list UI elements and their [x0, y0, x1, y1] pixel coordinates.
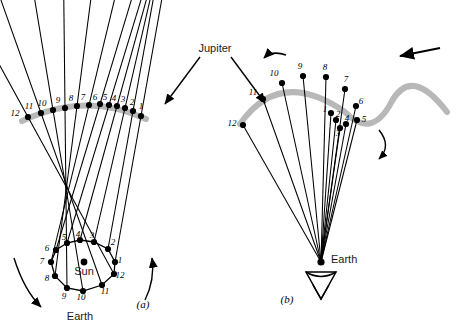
jupiter-b-label-12: 12: [228, 118, 238, 128]
jupiter-b-marker-12: [240, 122, 246, 128]
jupiter-b-label-5: 5: [362, 114, 367, 124]
earth-label-4: 4: [76, 229, 81, 239]
earth-label-2: 2: [111, 237, 116, 247]
observer-eye-icon: [306, 272, 336, 299]
jupiter-b-marker-1: [328, 110, 334, 116]
sight-lines-group-a: [0, 0, 173, 291]
jupiter-a-label-3: 3: [120, 94, 126, 104]
earth-label-10: 10: [77, 292, 87, 302]
earth-orbit-label: Earth: [67, 310, 93, 322]
panel-a-caption: (a): [137, 298, 150, 311]
earth-marker-7: [48, 259, 54, 265]
jupiter-b-label-8: 8: [323, 62, 328, 72]
panel-b: 121110987654321 Earth (b): [228, 48, 448, 306]
earth-label-12: 12: [116, 270, 126, 280]
jupiter-label: Jupiter: [198, 42, 231, 54]
earth-observer-marker: [317, 258, 324, 265]
sight-line-b-10: [282, 83, 321, 262]
retrograde-direction-arrow: [264, 53, 286, 58]
jupiter-b-label-11: 11: [249, 87, 257, 97]
sun-label: Sun: [74, 265, 94, 277]
jupiter-b-marker-10: [279, 80, 285, 86]
earth-label-9: 9: [62, 291, 67, 301]
earth-label-6: 6: [45, 243, 50, 253]
sight-line-b-5: [321, 120, 357, 262]
earth-label-7: 7: [40, 256, 45, 266]
jupiter-b-label-1: 1: [323, 104, 328, 114]
jupiter-position-markers-a: 121110987654321: [11, 92, 145, 120]
jupiter-a-label-8: 8: [69, 93, 74, 103]
jupiter-a-label-11: 11: [25, 101, 33, 111]
jupiter-a-label-4: 4: [112, 93, 117, 103]
earth-label-8: 8: [45, 273, 50, 283]
orbit-direction-arrow-left: [14, 258, 41, 307]
orbit-direction-arrow-right: [145, 258, 153, 300]
diagram-svg: Sun Earth 121110987654321 12345678910111…: [0, 0, 457, 324]
sight-line-a-11: [0, 0, 102, 285]
jupiter-b-marker-5: [354, 117, 360, 123]
sight-line-a-1: [115, 0, 173, 262]
jupiter-a-marker-9: [62, 105, 68, 111]
panel-a: Sun Earth 121110987654321 12345678910111…: [0, 0, 173, 322]
jupiter-a-marker-11: [38, 110, 44, 116]
jupiter-a-label-5: 5: [103, 92, 108, 102]
earth-observer-label: Earth: [331, 253, 357, 265]
earth-label-11: 11: [101, 286, 109, 296]
jupiter-b-marker-8: [323, 74, 329, 80]
jupiter-a-label-7: 7: [81, 92, 86, 102]
jupiter-position-markers-b: 121110987654321: [228, 61, 367, 138]
jupiter-b-label-6: 6: [359, 96, 364, 106]
sight-line-a-2: [108, 0, 165, 249]
jupiter-a-label-2: 2: [130, 97, 135, 107]
jupiter-a-marker-1: [138, 113, 144, 119]
jupiter-b-label-3: 3: [335, 128, 341, 138]
jupiter-a-marker-10: [50, 107, 56, 113]
jupiter-a-marker-3: [122, 105, 128, 111]
jupiter-a-marker-2: [130, 108, 136, 114]
jupiter-b-label-9: 9: [298, 61, 303, 71]
jupiter-a-label-6: 6: [93, 92, 98, 102]
jupiter-a-label-1: 1: [139, 101, 144, 111]
jupiter-a-label-9: 9: [56, 95, 61, 105]
sight-line-b-11: [263, 99, 321, 262]
loop-direction-arrow: [379, 130, 386, 159]
jupiter-b-marker-9: [300, 73, 306, 79]
earth-label-3: 3: [89, 230, 95, 240]
jupiter-b-marker-7: [342, 86, 348, 92]
jupiter-a-marker-4: [114, 103, 120, 109]
jupiter-pointer-arrow-left: [165, 57, 200, 104]
jupiter-a-marker-12: [25, 114, 31, 120]
figure-retrograde-motion: Sun Earth 121110987654321 12345678910111…: [0, 0, 457, 324]
earth-marker-8: [52, 273, 58, 279]
jupiter-b-label-2: 2: [336, 109, 341, 119]
earth-label-1: 1: [118, 255, 123, 265]
jupiter-b-label-7: 7: [344, 74, 349, 84]
earth-marker-6: [53, 247, 59, 253]
jupiter-b-label-10: 10: [270, 68, 280, 78]
apparent-motion-arrow: [400, 48, 440, 56]
jupiter-a-marker-8: [74, 103, 80, 109]
sight-line-a-10: [24, 0, 83, 291]
earth-label-5: 5: [62, 232, 67, 242]
jupiter-a-marker-7: [86, 102, 92, 108]
jupiter-b-label-4: 4: [345, 113, 350, 123]
jupiter-a-label-10: 10: [38, 98, 48, 108]
panel-b-caption: (b): [281, 293, 294, 306]
jupiter-a-label-12: 12: [11, 108, 21, 118]
